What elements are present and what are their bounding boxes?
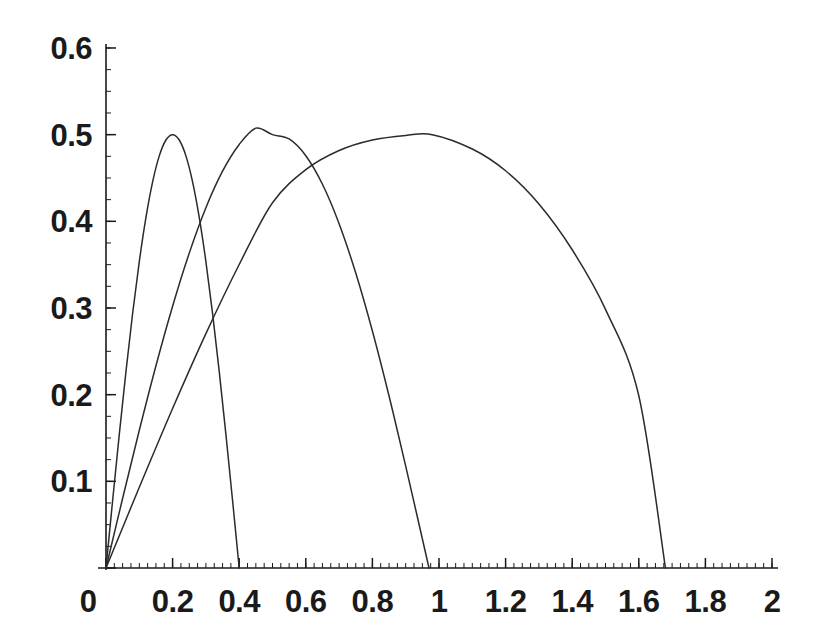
y-axis-major-ticks [106,48,116,568]
x-tick-label: 0 [80,586,97,617]
x-tick-label: 2 [764,586,781,617]
y-tick-label: 0.6 [50,32,92,63]
x-tick-label: 1.4 [551,586,593,617]
curve-curve-1 [106,135,239,568]
x-tick-label: 1.6 [618,586,660,617]
y-tick-label: 0.2 [50,379,92,410]
curve-curve-3 [106,134,665,568]
x-tick-label: 1.2 [485,586,527,617]
x-tick-label: 0.8 [352,586,394,617]
x-tick-label: 1 [431,586,448,617]
curve-curve-2 [106,128,429,568]
x-tick-label: 0.4 [218,586,260,617]
data-curves [106,128,665,568]
y-tick-label: 0.1 [50,466,92,497]
plot-figure: 00.20.40.60.811.21.41.61.82 0.10.20.30.4… [0,0,821,639]
x-tick-label: 1.8 [685,586,727,617]
plot-canvas [0,0,821,639]
y-tick-label: 0.4 [50,206,92,237]
y-tick-label: 0.3 [50,292,92,323]
y-tick-label: 0.5 [50,119,92,150]
x-tick-label: 0.2 [152,586,194,617]
x-tick-label: 0.6 [285,586,327,617]
